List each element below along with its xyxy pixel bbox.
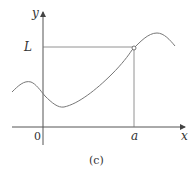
x-axis-label: x [181, 129, 188, 143]
limit-diagram: y x 0 a L (c) [0, 0, 195, 174]
y-axis-label: y [31, 6, 39, 20]
open-circle-point [132, 46, 136, 50]
function-curve [12, 33, 175, 107]
a-label: a [131, 129, 138, 143]
origin-label: 0 [34, 130, 41, 143]
caption: (c) [89, 154, 104, 167]
L-label: L [23, 40, 32, 54]
